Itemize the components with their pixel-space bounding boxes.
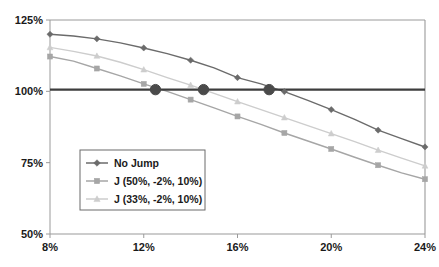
legend-entry-label: J (33%, -2%, 10%) bbox=[114, 193, 202, 205]
breakeven-point-marker bbox=[264, 84, 274, 94]
y-axis-tick-label: 50% bbox=[21, 228, 43, 240]
data-point-marker bbox=[282, 130, 287, 135]
chart-legend: No JumpJ (50%, -2%, 10%)J (33%, -2%, 10%… bbox=[80, 150, 205, 210]
x-axis-tick-label: 12% bbox=[133, 241, 155, 253]
data-point-marker bbox=[422, 177, 427, 182]
y-axis-tick-label: 125% bbox=[15, 14, 43, 26]
data-point-marker bbox=[141, 81, 146, 86]
breakeven-point-marker bbox=[198, 84, 208, 94]
chart-background bbox=[0, 0, 439, 267]
y-axis-tick-label: 75% bbox=[21, 157, 43, 169]
legend-marker-swatch bbox=[94, 178, 99, 183]
data-point-marker bbox=[235, 114, 240, 119]
x-axis-tick-label: 20% bbox=[320, 241, 342, 253]
legend-entry-label: No Jump bbox=[114, 157, 159, 169]
legend-entry-label: J (50%, -2%, 10%) bbox=[114, 175, 202, 187]
data-point-marker bbox=[188, 97, 193, 102]
x-axis-tick-label: 8% bbox=[42, 241, 58, 253]
data-point-marker bbox=[329, 146, 334, 151]
data-point-marker bbox=[376, 163, 381, 168]
line-chart: 50%75%100%125% 8%12%16%20%24% No JumpJ (… bbox=[0, 0, 439, 267]
chart-container: 50%75%100%125% 8%12%16%20%24% No JumpJ (… bbox=[0, 0, 439, 267]
data-point-marker bbox=[94, 66, 99, 71]
x-axis-tick-label: 24% bbox=[414, 241, 436, 253]
x-axis-tick-label: 16% bbox=[226, 241, 248, 253]
y-axis-tick-label: 100% bbox=[15, 85, 43, 97]
breakeven-point-marker bbox=[150, 84, 160, 94]
data-point-marker bbox=[47, 54, 52, 59]
